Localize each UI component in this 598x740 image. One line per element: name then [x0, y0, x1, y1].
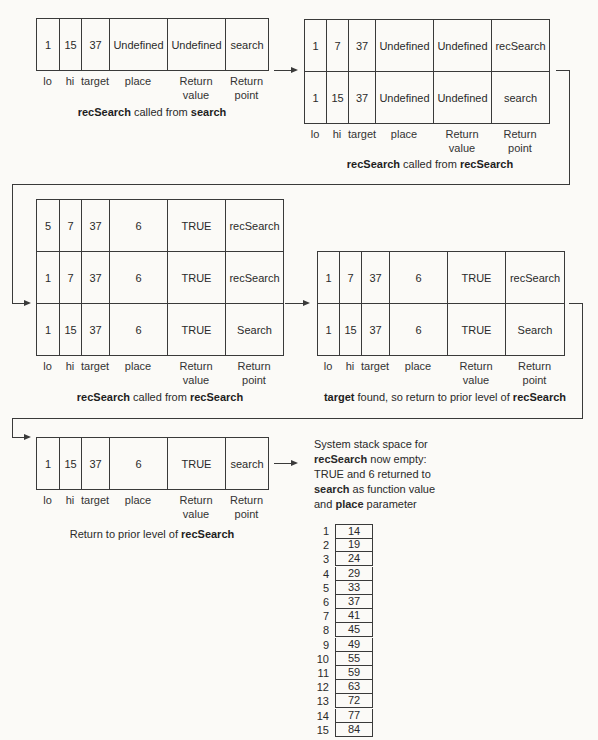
- cell-target: 37: [82, 200, 110, 252]
- cell-place: 6: [110, 438, 168, 490]
- cell-return-value: TRUE: [168, 438, 226, 490]
- array-index: 6: [313, 596, 335, 608]
- cell-lo: 1: [37, 252, 60, 304]
- connector-line: [12, 418, 13, 438]
- cell-return-point: search: [226, 438, 269, 490]
- cell-hi: 15: [60, 304, 82, 356]
- array-cell: 84: [335, 723, 373, 737]
- array-row: 1263: [313, 680, 373, 694]
- note-line: System stack space for: [314, 437, 514, 452]
- cell-hi: 15: [340, 304, 362, 356]
- array-index: 9: [313, 639, 335, 651]
- cell-return-value: TRUE: [448, 304, 506, 356]
- stack-row: 1 7 37 6 TRUE recSearch: [37, 252, 284, 304]
- array-row: 949: [313, 638, 373, 652]
- cell-lo: 5: [37, 200, 60, 252]
- array-index: 4: [313, 568, 335, 580]
- array-cell: 19: [335, 538, 373, 552]
- cell-return-value: TRUE: [168, 200, 226, 252]
- note-line: TRUE and 6 returned to: [314, 467, 514, 482]
- stack-table: 5 7 37 6 TRUE recSearch 1 7 37 6 TRUE re…: [36, 199, 284, 356]
- array-cell: 55: [335, 652, 373, 666]
- column-labels: lo hi target place Returnvalue Returnpoi…: [36, 74, 269, 102]
- cell-hi: 7: [340, 252, 362, 304]
- column-labels: lo hi target place Returnvalue Returnpoi…: [317, 359, 565, 387]
- label-return-point: Returnpoint: [225, 359, 283, 387]
- array-index: 10: [313, 653, 335, 665]
- cell-place: 6: [390, 252, 448, 304]
- array-index: 13: [313, 695, 335, 707]
- cell-hi: 15: [60, 438, 82, 490]
- array-cell: 63: [335, 680, 373, 694]
- array-row: 324: [313, 552, 373, 566]
- label-target: target: [81, 74, 109, 102]
- array-index: 8: [313, 624, 335, 636]
- frame-2-caption: recSearch called from recSearch: [304, 158, 556, 170]
- label-return-value: Returnvalue: [167, 359, 225, 387]
- cell-target: 37: [82, 304, 110, 356]
- stack-frame-2: 1 7 37 Undefined Undefined recSearch 1 1…: [304, 19, 550, 155]
- array-cell: 72: [335, 694, 373, 708]
- cell-target: 37: [349, 20, 376, 72]
- arrow-right-icon: [291, 460, 298, 466]
- cell-target: 37: [349, 72, 376, 124]
- cell-lo: 1: [37, 19, 60, 71]
- array-index: 7: [313, 610, 335, 622]
- array-cell: 14: [335, 524, 373, 539]
- cell-place: 6: [110, 304, 168, 356]
- stack-row: 1 15 37 6 TRUE Search: [37, 304, 284, 356]
- label-place: place: [109, 359, 167, 387]
- array-cell: 33: [335, 581, 373, 595]
- label-hi: hi: [339, 359, 361, 387]
- label-target: target: [361, 359, 389, 387]
- array-row: 219: [313, 538, 373, 552]
- cell-return-point: recSearch: [226, 252, 284, 304]
- stack-row: 1 15 37 Undefined Undefined search: [305, 72, 550, 124]
- label-return-point: Returnpoint: [225, 493, 268, 521]
- array-cell: 77: [335, 709, 373, 723]
- connector-line: [274, 70, 292, 71]
- sorted-array: 1142193244295336377418459491055115912631…: [313, 524, 373, 737]
- stack-row: 1 7 37 6 TRUE recSearch: [318, 252, 565, 304]
- connector-line: [12, 418, 583, 419]
- stack-table: 1 15 37 Undefined Undefined search: [36, 18, 269, 71]
- cell-hi: 7: [60, 252, 82, 304]
- label-place: place: [375, 127, 433, 155]
- label-return-point: Returnpoint: [225, 74, 268, 102]
- array-row: 1055: [313, 652, 373, 666]
- cell-return-point: search: [226, 19, 269, 71]
- cell-return-value: Undefined: [434, 72, 492, 124]
- array-cell: 45: [335, 623, 373, 637]
- cell-place: Undefined: [376, 20, 434, 72]
- cell-return-point: recSearch: [492, 20, 550, 72]
- label-hi: hi: [59, 359, 81, 387]
- label-lo: lo: [317, 359, 339, 387]
- connector-line: [12, 184, 13, 304]
- array-index: 14: [313, 710, 335, 722]
- connector-line: [274, 463, 292, 464]
- label-return-point: Returnpoint: [505, 359, 564, 387]
- array-cell: 37: [335, 595, 373, 609]
- array-index: 12: [313, 681, 335, 693]
- note-line: and place parameter: [314, 497, 514, 512]
- cell-place: Undefined: [110, 19, 168, 71]
- array-row: 1584: [313, 723, 373, 737]
- label-return-value: Returnvalue: [447, 359, 505, 387]
- cell-hi: 7: [60, 200, 82, 252]
- stack-table: 1 15 37 6 TRUE search: [36, 437, 269, 490]
- cell-target: 37: [362, 252, 390, 304]
- connector-line: [569, 303, 583, 304]
- array-row: 1372: [313, 694, 373, 708]
- cell-lo: 1: [305, 20, 327, 72]
- label-place: place: [109, 74, 167, 102]
- array-index: 15: [313, 724, 335, 736]
- connector-line: [12, 184, 570, 185]
- array-row: 429: [313, 567, 373, 581]
- array-row: 845: [313, 623, 373, 637]
- frame-4-caption: target found, so return to prior level o…: [310, 391, 580, 403]
- stack-table: 1 7 37 6 TRUE recSearch 1 15 37 6 TRUE S…: [317, 251, 565, 356]
- cell-return-value: TRUE: [448, 252, 506, 304]
- arrow-right-icon: [303, 300, 310, 306]
- array-row: 637: [313, 595, 373, 609]
- label-return-value: Returnvalue: [433, 127, 491, 155]
